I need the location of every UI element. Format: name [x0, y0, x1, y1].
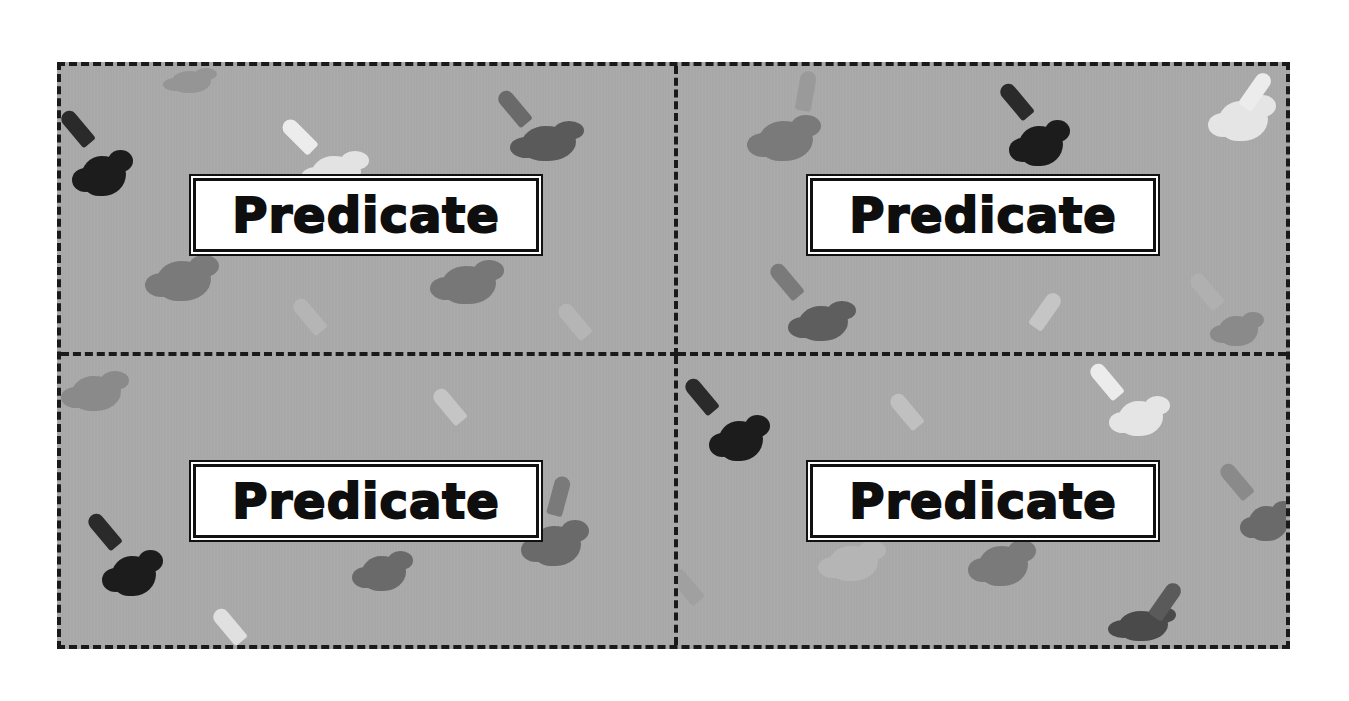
card-label: Predicate [810, 178, 1156, 252]
card-bottom-right: Predicate [678, 356, 1286, 645]
card-label: Predicate [810, 464, 1156, 538]
card-sheet: Predicate Predicate [57, 62, 1290, 649]
card-label-text: Predicate [849, 191, 1117, 239]
card-label-text: Predicate [232, 191, 500, 239]
card-label: Predicate [193, 464, 539, 538]
card-top-right: Predicate [678, 66, 1286, 356]
card-top-left: Predicate [61, 66, 678, 356]
card-bottom-left: Predicate [61, 356, 678, 645]
card-label: Predicate [193, 178, 539, 252]
card-label-text: Predicate [232, 477, 500, 525]
card-label-text: Predicate [849, 477, 1117, 525]
